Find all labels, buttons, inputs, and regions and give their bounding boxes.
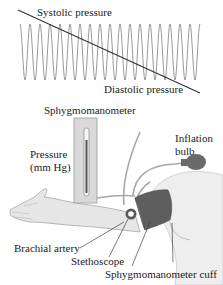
blood-pressure-diagram: Systolic pressure Diastolic pressure — [0, 0, 223, 285]
sphygmomanometer-cuff-label: Sphygmomanometer cuff — [105, 268, 217, 280]
sphygmomanometer-gauge — [74, 118, 97, 203]
inflation-bulb-label-line2: bulb — [175, 145, 195, 157]
stethoscope-label: Stethoscope — [71, 255, 124, 267]
inflation-bulb-label-line1: Inflation — [175, 132, 213, 144]
mercury-column — [86, 140, 88, 193]
stethoscope-head — [126, 209, 137, 220]
pressure-label-line2: (mm Hg) — [30, 161, 71, 174]
diastolic-pressure-label: Diastolic pressure — [104, 83, 183, 95]
pressure-label-line1: Pressure — [30, 148, 67, 160]
brachial-artery-label: Brachial artery — [14, 242, 80, 254]
apparatus-illustration: Sphygmomanometer Pressure (mm Hg) Inflat… — [10, 104, 223, 285]
sphygmomanometer-label: Sphygmomanometer — [44, 104, 136, 116]
pressure-waveform: Systolic pressure Diastolic pressure — [18, 6, 200, 95]
systolic-pressure-label: Systolic pressure — [37, 6, 112, 18]
